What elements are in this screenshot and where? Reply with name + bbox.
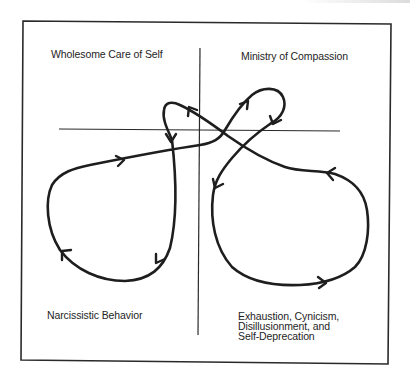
cycle-path	[48, 89, 368, 285]
quadrant-label-exhaustion-cynicism: Exhaustion, Cynicism, Disillusionment, a…	[238, 311, 339, 341]
vertical-axis	[198, 48, 200, 335]
label-line: Self-Deprecation	[238, 331, 339, 341]
quadrant-label-wholesome-care-of-self: Wholesome Care of Self	[51, 49, 163, 59]
quadrant-label-ministry-of-compassion: Ministry of Compassion	[241, 51, 348, 61]
quadrant-label-narcissistic-behavior: Narcissistic Behavior	[47, 310, 142, 320]
